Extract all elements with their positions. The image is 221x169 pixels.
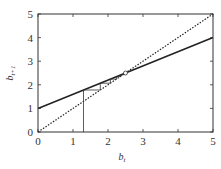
y-tick-label: 0 (28, 126, 34, 138)
y-tick-label: 1 (28, 102, 34, 114)
x-tick-label: 5 (210, 135, 216, 147)
x-axis-label: bt (119, 151, 127, 164)
fixed-point-marker (124, 71, 128, 75)
x-tick-label: 1 (70, 135, 76, 147)
plot-area (38, 14, 213, 132)
x-tick-label: 2 (105, 135, 111, 147)
y-tick-label: 3 (28, 55, 34, 67)
cobweb-chart: 012345012345 bt bt+1 (0, 0, 221, 169)
y-tick-label: 2 (28, 79, 34, 91)
y-tick-label: 4 (28, 32, 34, 44)
y-axis-label: bt+1 (4, 65, 17, 80)
x-tick-label: 4 (175, 135, 181, 147)
x-tick-label: 0 (35, 135, 41, 147)
axis-ticks: 012345012345 (28, 8, 217, 147)
x-tick-label: 3 (140, 135, 146, 147)
y-tick-label: 5 (28, 8, 34, 20)
